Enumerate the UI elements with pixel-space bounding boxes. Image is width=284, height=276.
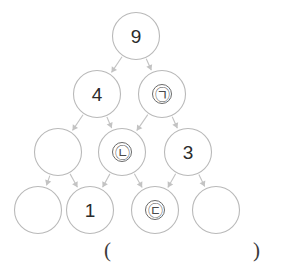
node-label: 4	[92, 84, 103, 105]
nodes-group: 94㉠㉡31㉢	[15, 13, 240, 234]
answer-blank[interactable]	[117, 240, 251, 262]
node-n6[interactable]	[15, 187, 62, 234]
answer-paren-open: (	[104, 240, 111, 261]
node-n4[interactable]: ㉡	[99, 129, 146, 176]
node-circle	[193, 187, 240, 234]
node-n2[interactable]: ㉠	[139, 71, 186, 118]
number-lattice-diagram: 94㉠㉡31㉢	[0, 0, 284, 276]
node-label: 9	[131, 26, 142, 47]
node-label: ㉠	[155, 86, 170, 104]
node-n3[interactable]	[35, 129, 82, 176]
arrow-head-icon	[73, 124, 79, 130]
node-label: 3	[183, 142, 194, 163]
node-label: 1	[85, 200, 96, 221]
node-n8[interactable]: ㉢	[132, 187, 179, 234]
node-n9[interactable]	[193, 187, 240, 234]
node-circle	[15, 187, 62, 234]
arrow-head-icon	[112, 66, 118, 72]
node-circle	[35, 129, 82, 176]
node-n0[interactable]: 9	[113, 13, 160, 60]
node-label: ㉢	[148, 202, 163, 220]
node-label: ㉡	[115, 144, 130, 162]
diagram-page: 94㉠㉡31㉢ ( )	[0, 0, 284, 276]
node-n1[interactable]: 4	[74, 71, 121, 118]
node-n7[interactable]: 1	[67, 187, 114, 234]
answer-paren-close: )	[253, 240, 260, 261]
node-n5[interactable]: 3	[165, 129, 212, 176]
arrow-head-icon	[137, 125, 143, 131]
